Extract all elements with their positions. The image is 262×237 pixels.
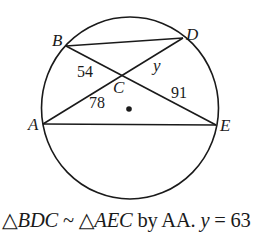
chord-BD (66, 38, 183, 46)
variable-name: y (200, 209, 209, 231)
point-label-E: E (219, 116, 231, 135)
triangle-symbol-2: △ (79, 209, 95, 231)
point-label-B: B (52, 31, 63, 50)
point-label-C: C (113, 78, 125, 97)
point-label-D: D (185, 25, 199, 44)
equals-sign: = (214, 209, 225, 231)
caption: △BDC ~ △AEC by AA. y = 63 (2, 208, 262, 232)
chord-AE (43, 124, 216, 125)
circle-diagram: B D A E C 54 y 78 91 (0, 0, 262, 237)
similarity-reason: by AA. (137, 209, 195, 231)
chord-BE (66, 46, 216, 125)
triangle-symbol-1: △ (2, 209, 18, 231)
segment-label-CD: y (151, 56, 161, 75)
triangle-2-name: AEC (94, 209, 132, 231)
segment-label-BC: 54 (77, 63, 93, 80)
point-label-A: A (27, 115, 39, 134)
segment-label-CE: 91 (171, 84, 187, 101)
triangle-1-name: BDC (18, 209, 58, 231)
variable-value: 63 (231, 209, 251, 231)
center-dot (126, 106, 132, 112)
segment-label-AC: 78 (89, 94, 105, 111)
similar-symbol: ~ (63, 209, 74, 231)
